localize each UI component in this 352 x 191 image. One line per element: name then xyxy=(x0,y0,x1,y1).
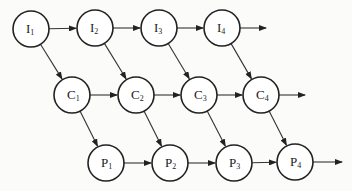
node-I3: I3 xyxy=(141,10,177,46)
arrow-C3-to-P3 xyxy=(207,111,225,146)
arrow-C2-to-P2 xyxy=(144,111,162,146)
node-P2: P2 xyxy=(152,145,188,181)
node-C2: C2 xyxy=(118,77,154,113)
arrow-C1-to-P1 xyxy=(80,111,98,146)
node-I4: I4 xyxy=(204,10,240,46)
node-C3: C3 xyxy=(181,77,217,113)
arrow-I1-to-C1 xyxy=(41,44,63,79)
node-P3: P3 xyxy=(216,145,252,181)
node-P4: P4 xyxy=(277,144,313,180)
diagram-canvas: I1I2I3I4C1C2C3C4P1P2P3P4 xyxy=(0,0,352,191)
node-P1: P1 xyxy=(88,145,124,181)
node-I2: I2 xyxy=(77,10,113,46)
node-C4: C4 xyxy=(243,77,279,113)
node-I1: I1 xyxy=(13,11,49,47)
node-C1: C1 xyxy=(54,77,90,113)
pipeline-diagram: I1I2I3I4C1C2C3C4P1P2P3P4 xyxy=(0,0,352,191)
arrow-I2-to-C2 xyxy=(104,43,126,78)
arrow-I4-to-C4 xyxy=(231,44,251,79)
arrow-C4-to-P4 xyxy=(269,111,286,145)
arrow-I3-to-C3 xyxy=(168,44,189,79)
